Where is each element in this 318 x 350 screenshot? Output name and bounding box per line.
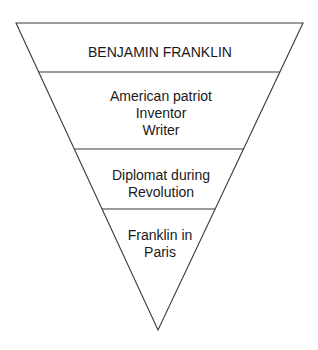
layer-3-line-1: Diplomat during	[112, 167, 210, 183]
layer-4-line-2: Paris	[144, 244, 176, 260]
layer-2-roles: American patriot Inventor Writer	[110, 88, 212, 138]
layer-2-line-2: Inventor	[136, 105, 187, 121]
layer-1-benjamin-franklin: BENJAMIN FRANKLIN	[88, 44, 232, 60]
layer-1-line-1: BENJAMIN FRANKLIN	[88, 44, 232, 60]
layer-4-line-1: Franklin in	[128, 227, 193, 243]
layer-3-diplomat: Diplomat during Revolution	[112, 167, 210, 200]
layer-2-line-1: American patriot	[110, 88, 212, 104]
layer-3-line-2: Revolution	[128, 184, 194, 200]
inverted-pyramid-diagram: BENJAMIN FRANKLIN American patriot Inven…	[0, 0, 318, 350]
layer-4-paris: Franklin in Paris	[128, 227, 193, 260]
layer-2-line-3: Writer	[142, 122, 179, 138]
